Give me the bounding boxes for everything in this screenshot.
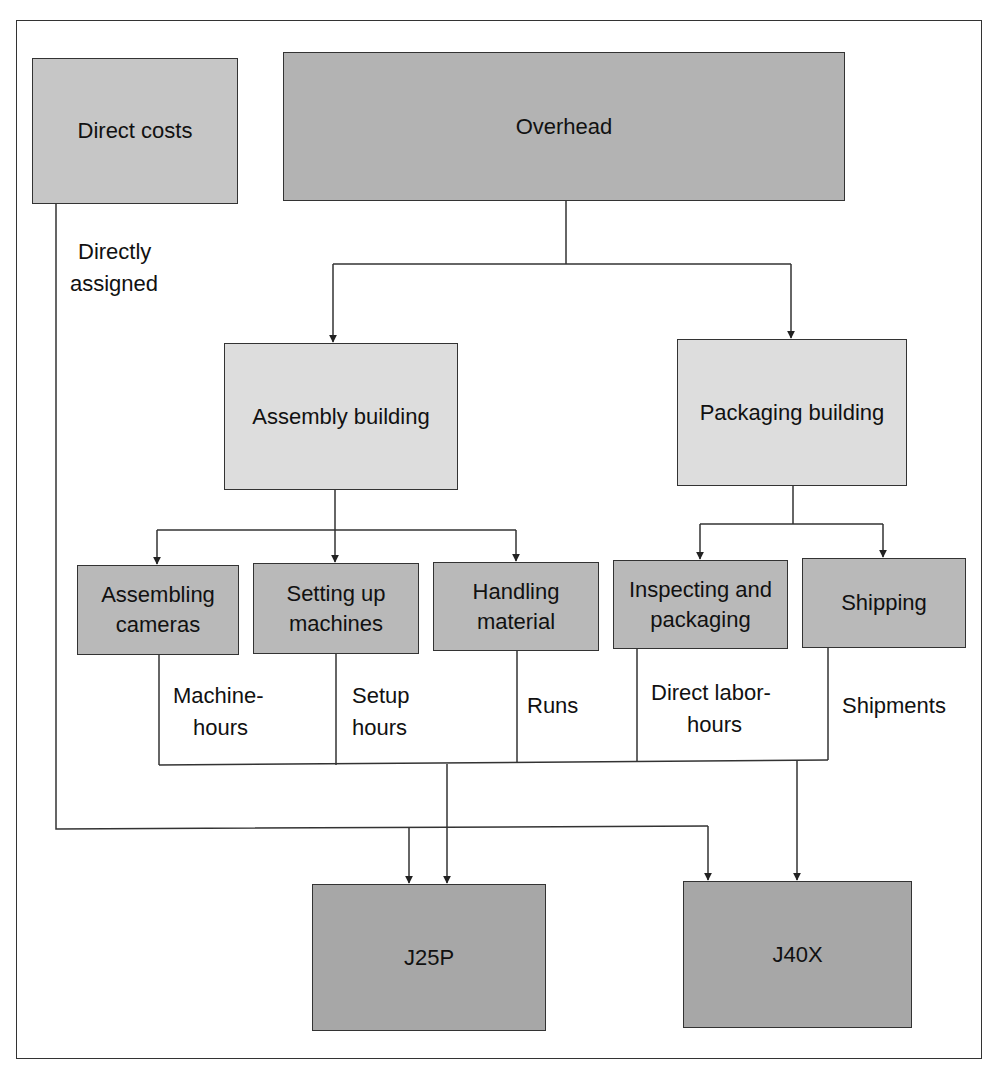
driver-setup-hours: Setup hours: [352, 680, 410, 744]
packaging-building-label: Packaging building: [700, 398, 885, 428]
driver-runs: Runs: [527, 690, 578, 722]
activity-handling-material: Handling material: [433, 562, 599, 651]
product-j25p: J25P: [312, 884, 546, 1031]
activity-setting-up-machines: Setting up machines: [253, 563, 419, 654]
packaging-building-node: Packaging building: [677, 339, 907, 486]
driver-direct-labor-hours: Direct labor- hours: [651, 677, 771, 741]
assembly-building-node: Assembly building: [224, 343, 458, 490]
activity-assembling-cameras: Assembling cameras: [77, 565, 239, 655]
overhead-node: Overhead: [283, 52, 845, 201]
directly-assigned-label: Directly assigned: [70, 236, 158, 300]
assembly-building-label: Assembly building: [252, 402, 429, 432]
driver-machine-hours: Machine- hours: [173, 680, 263, 744]
overhead-label: Overhead: [516, 112, 613, 142]
direct-costs-label: Direct costs: [78, 116, 193, 146]
activity-shipping: Shipping: [802, 558, 966, 648]
driver-shipments: Shipments: [842, 690, 946, 722]
activity-inspecting-packaging: Inspecting and packaging: [613, 560, 788, 649]
direct-costs-node: Direct costs: [32, 58, 238, 204]
product-j40x: J40X: [683, 881, 912, 1028]
